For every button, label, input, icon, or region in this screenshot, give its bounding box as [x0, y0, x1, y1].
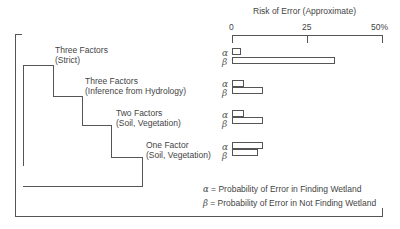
stair-top-4 [111, 157, 142, 158]
tick-label-0: 0 [229, 22, 234, 32]
outer-frame-bottom [15, 216, 383, 217]
bar-alpha-two-factors [232, 110, 244, 117]
beta-symbol: β [222, 152, 227, 161]
bar-alpha-three-factors-strict [232, 48, 241, 55]
bar-beta-one-factor [232, 149, 258, 156]
category-sub: (Soil, Vegetation) [116, 118, 181, 128]
bar-beta-two-factors [232, 117, 263, 124]
outer-frame-right-stub [382, 208, 383, 217]
category-name: Three Factors [85, 76, 186, 86]
stair-top-1 [23, 65, 53, 66]
tick-label-50: 50% [371, 22, 388, 32]
bar-beta-three-factors-strict [232, 57, 335, 64]
stair-v-1 [53, 65, 54, 96]
axis-tick-25 [307, 35, 308, 43]
stair-top-2 [53, 96, 83, 97]
outer-frame-left [15, 34, 16, 217]
category-name: Two Factors [116, 108, 181, 118]
category-sub: (Strict) [55, 55, 108, 65]
legend-beta-text: = Probability of Error in Not Finding We… [208, 198, 376, 208]
legend-beta: β = Probability of Error in Not Finding … [203, 198, 376, 208]
category-name: One Factor [146, 140, 211, 150]
category-sub: (Soil, Vegetation) [146, 150, 211, 160]
outer-frame-top-stub [15, 34, 22, 35]
beta-symbol: β [222, 120, 227, 129]
stair-top-3 [82, 125, 112, 126]
legend-alpha-text: = Probability of Error in Finding Wetlan… [209, 184, 362, 194]
stair-v-3 [111, 125, 112, 157]
stair-v-2 [82, 96, 83, 125]
bar-alpha-one-factor [232, 142, 263, 149]
category-name: Three Factors [55, 45, 108, 55]
bar-alpha-three-factors-hydrology [232, 80, 244, 87]
tick-label-25: 25 [302, 22, 311, 32]
category-label-two-factors: Two Factors (Soil, Vegetation) [116, 108, 181, 128]
axis-tick-50 [382, 35, 383, 43]
stair-left [23, 65, 24, 166]
legend-alpha: α = Probability of Error in Finding Wetl… [203, 184, 361, 194]
category-label-three-factors-hydrology: Three Factors (Inference from Hydrology) [85, 76, 186, 96]
stair-bottom [23, 186, 143, 187]
category-label-three-factors-strict: Three Factors (Strict) [55, 45, 108, 65]
axis-title: Risk of Error (Approximate) [253, 6, 356, 16]
axis-tick-0 [232, 35, 233, 43]
beta-symbol: β [222, 89, 227, 98]
category-label-one-factor: One Factor (Soil, Vegetation) [146, 140, 211, 160]
bar-beta-three-factors-hydrology [232, 87, 263, 94]
beta-symbol: β [222, 58, 227, 67]
category-sub: (Inference from Hydrology) [85, 86, 186, 96]
stair-v-4 [142, 157, 143, 187]
